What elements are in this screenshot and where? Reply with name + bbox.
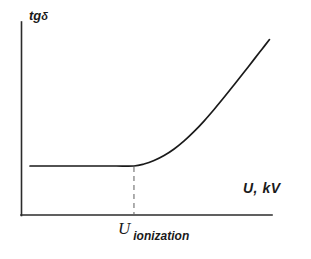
y-axis-label: tgδ — [29, 9, 48, 22]
ionization-label-base: U — [118, 219, 130, 238]
y-axis-label-symbol: δ — [41, 10, 48, 22]
ionization-threshold-label: Uionization — [118, 220, 186, 237]
ionization-label-subscript: ionization — [133, 229, 189, 243]
x-axis-label: U, kV — [243, 181, 281, 195]
chart-figure: tgδ U, kV Uionization — [0, 0, 311, 259]
y-axis-label-base: tg — [29, 8, 41, 23]
tg-delta-curve — [30, 40, 269, 167]
